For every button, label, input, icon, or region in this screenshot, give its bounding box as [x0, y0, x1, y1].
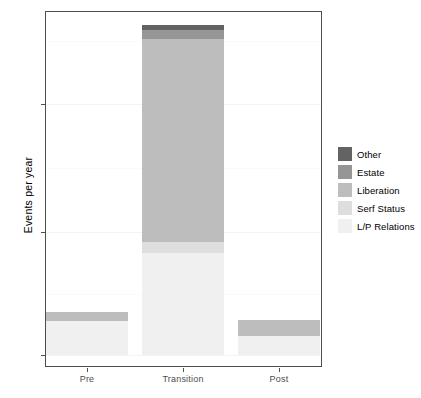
bar-segment-post-liberation: [238, 320, 320, 336]
legend-label-estate: Estate: [357, 167, 385, 178]
legend-swatch-lp-relations: [338, 219, 352, 233]
plot-area: [46, 12, 321, 366]
x-tick-mark-post: [279, 368, 280, 372]
gridline-major-0: [46, 355, 321, 356]
stacked-bar-chart: Events per year 200 100 0 Pre Transition…: [0, 0, 421, 398]
bar-transition: [142, 25, 224, 355]
plot-panel: [45, 11, 322, 367]
x-tick-label-pre: Pre: [80, 374, 95, 384]
x-tick-label-post: Post: [270, 374, 289, 384]
bar-segment-pre-l-p-relations: [46, 321, 128, 355]
legend-item-liberation: Liberation: [338, 181, 418, 199]
bar-segment-pre-liberation: [46, 312, 128, 321]
bar-segment-transition-other: [142, 25, 224, 30]
legend-item-serf-status: Serf Status: [338, 199, 418, 217]
bar-segment-transition-serf-status: [142, 242, 224, 253]
legend-swatch-serf-status: [338, 201, 352, 215]
legend-item-lp-relations: L/P Relations: [338, 217, 418, 235]
legend-label-other: Other: [357, 149, 381, 160]
x-tick-mark-pre: [87, 368, 88, 372]
legend-swatch-other: [338, 147, 352, 161]
legend-swatch-liberation: [338, 183, 352, 197]
y-axis-title: Events per year: [22, 115, 34, 275]
x-tick-mark-transition: [183, 368, 184, 372]
bar-segment-transition-liberation: [142, 39, 224, 242]
bar-segment-transition-l-p-relations: [142, 253, 224, 355]
bar-post: [238, 320, 320, 355]
legend-label-serf-status: Serf Status: [357, 203, 405, 214]
legend-swatch-estate: [338, 165, 352, 179]
legend-label-lp-relations: L/P Relations: [357, 221, 415, 232]
legend-label-liberation: Liberation: [357, 185, 400, 196]
bar-pre: [46, 312, 128, 355]
bar-segment-transition-estate: [142, 30, 224, 39]
x-tick-label-transition: Transition: [162, 374, 203, 384]
legend: Other Estate Liberation Serf Status L/P …: [338, 145, 418, 235]
bar-segment-post-l-p-relations: [238, 336, 320, 355]
legend-item-estate: Estate: [338, 163, 418, 181]
legend-item-other: Other: [338, 145, 418, 163]
